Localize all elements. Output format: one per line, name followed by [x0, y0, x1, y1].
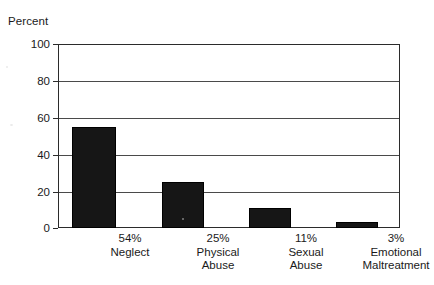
y-tick-label-40: 40	[6, 149, 50, 161]
plot-area	[58, 44, 400, 228]
x-category-line2: Maltreatment	[336, 259, 434, 273]
gridline-40	[59, 155, 399, 156]
y-tick-label-0: 0	[6, 222, 50, 234]
gridline-20	[59, 192, 399, 193]
scan-speckle	[10, 124, 13, 126]
scan-speckle	[6, 66, 8, 68]
gridline-80	[59, 81, 399, 82]
y-tick-label-100: 100	[6, 38, 50, 50]
x-category-percent: 3%	[336, 232, 434, 246]
gridline-60	[59, 118, 399, 119]
y-tick-mark-0	[53, 228, 58, 229]
x-category-emotional-maltreatment: 3% Emotional Maltreatment	[336, 232, 434, 273]
x-axis-category-labels: 54% Neglect 25% Physical Abuse 11% Sexua…	[58, 232, 400, 282]
y-axis-tick-labels: 100 80 60 40 20 0	[0, 0, 50, 285]
y-tick-label-80: 80	[6, 75, 50, 87]
y-tick-label-60: 60	[6, 112, 50, 124]
y-tick-label-20: 20	[6, 186, 50, 198]
scan-speckle	[182, 218, 184, 220]
x-category-line1: Emotional	[336, 246, 434, 260]
